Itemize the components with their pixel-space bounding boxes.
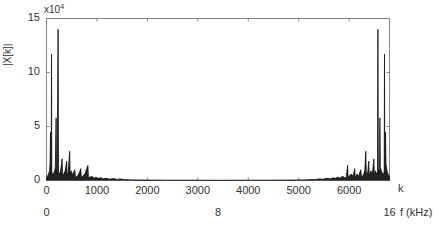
x-axis-k-label: k xyxy=(398,182,404,194)
x-tick-label: 5000 xyxy=(286,184,310,196)
y-tick-label: 0 xyxy=(34,173,40,185)
x-tick-label: 6000 xyxy=(337,184,361,196)
plot-frame xyxy=(47,19,390,181)
x-tick-label: 4000 xyxy=(236,184,260,196)
x-tick-label: 3000 xyxy=(186,184,210,196)
y-tick-label: 5 xyxy=(34,119,40,131)
f-tick-label: 8 xyxy=(215,206,221,218)
x-tick-label: 1000 xyxy=(85,184,109,196)
f-tick-label: 16 xyxy=(383,206,395,218)
y-tick-label: 10 xyxy=(28,65,40,77)
f-tick-label: 0 xyxy=(43,206,49,218)
axis-ticks xyxy=(47,19,390,181)
x-axis-f-label: f (kHz) xyxy=(400,206,432,218)
spectrum-line xyxy=(47,29,390,180)
spectrum-plot xyxy=(0,0,443,230)
x-tick-label: 0 xyxy=(43,184,49,196)
x-tick-label: 2000 xyxy=(135,184,159,196)
y-tick-label: 15 xyxy=(28,11,40,23)
